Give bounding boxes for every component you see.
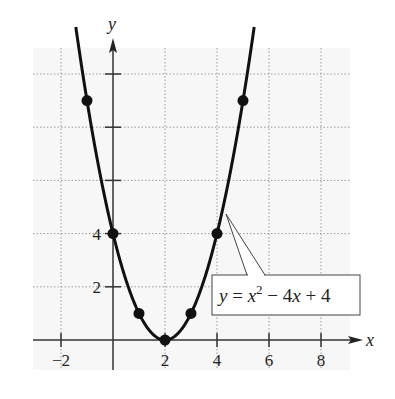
x-tick-label: 2 [161, 351, 170, 370]
plot-area [33, 48, 350, 370]
data-point [186, 308, 197, 319]
x-tick-label: 6 [265, 351, 274, 370]
plot-background [33, 48, 350, 370]
y-tick-label: 2 [93, 278, 102, 297]
x-tick-label: 8 [317, 351, 326, 370]
y-tick-label: 4 [93, 225, 102, 244]
data-point [238, 95, 249, 106]
data-point [82, 95, 93, 106]
data-point [212, 228, 223, 239]
y-axis-label: y [106, 14, 116, 34]
parabola-chart: xy −2246824 y = x2 − 4x + 4 [0, 0, 395, 399]
x-axis-label: x [365, 330, 374, 350]
x-tick-label: 4 [213, 351, 222, 370]
x-tick-label: −2 [52, 351, 70, 370]
data-point [160, 335, 171, 346]
equation-label: y = x2 − 4x + 4 [217, 282, 331, 306]
data-point [108, 228, 119, 239]
data-point [134, 308, 145, 319]
